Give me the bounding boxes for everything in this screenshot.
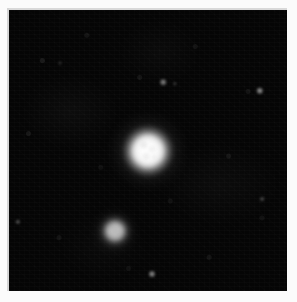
field-star-3 (148, 270, 155, 277)
field-star-5 (260, 197, 265, 202)
sky-field (9, 10, 287, 291)
secondary-nebulous-object-core (106, 222, 124, 240)
field-star-1 (160, 79, 167, 86)
field-star-7 (58, 61, 62, 65)
primary-nebulous-object-core (132, 135, 164, 167)
sky-noise-grain (9, 10, 287, 291)
secondary-nebulous-object-outer-halo (93, 209, 137, 253)
secondary-nebulous-object-core-mottling (107, 223, 124, 240)
sky-noise-speckle (9, 10, 287, 291)
secondary-nebulous-object-inner-halo (102, 218, 129, 245)
field-star-2 (256, 87, 263, 94)
field-star-6 (173, 82, 177, 86)
sky-noise-mottle (9, 10, 287, 291)
primary-nebulous-object-outer-halo (111, 114, 185, 188)
field-star-4 (15, 219, 20, 224)
primary-nebulous-object-core-mottling (134, 137, 163, 166)
primary-nebulous-object-inner-halo (125, 128, 171, 174)
image-canvas (0, 0, 297, 302)
